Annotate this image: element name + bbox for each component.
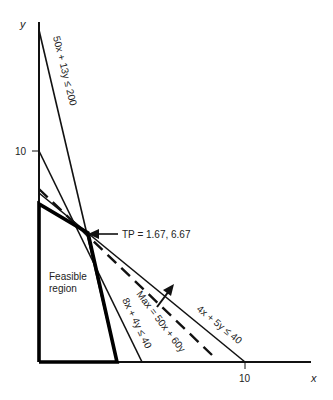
- x-tick-label: 10: [239, 373, 251, 384]
- lp-graph: y x 10 10 50x + 13y ≤ 200 8x + 4y ≤ 40 4…: [0, 0, 333, 400]
- x-axis-label: x: [310, 372, 317, 384]
- y-tick-label: 10: [15, 146, 27, 157]
- tangent-point-label: TP = 1.67, 6.67: [122, 229, 191, 240]
- constraint-line-8x-4y: [39, 151, 142, 362]
- feasible-region-label-line2: region: [49, 283, 77, 294]
- arrowhead-icon: [163, 284, 174, 296]
- constraint-label-4x-5y: 4x + 5y ≤ 40: [195, 303, 245, 346]
- y-axis-label: y: [19, 18, 27, 30]
- feasible-region-label-line1: Feasible: [49, 271, 87, 282]
